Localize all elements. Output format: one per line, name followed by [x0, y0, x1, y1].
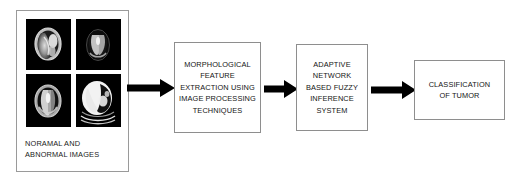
anfis-line-1: ADAPTIVE — [306, 59, 358, 70]
input-caption-line-1: NORAMAL AND — [25, 138, 125, 149]
flowchart-diagram: NORAMAL AND ABNORMAL IMAGES MORPHOLOGICA… — [0, 0, 519, 184]
brain-scan-axial-1-image — [26, 19, 71, 70]
chest-scan-axial-4-image — [76, 74, 121, 127]
anfis-box-text: ADAPTIVE NETWORK BASED FUZZY INFERENCE S… — [306, 59, 358, 116]
morphological-line-3: EXTRACTION USING — [179, 82, 256, 93]
morphological-line-4: IMAGE PROCESSING — [179, 93, 256, 104]
classification-box-text: CLASSIFICATION OF TUMOR — [429, 79, 491, 102]
classification-line-1: CLASSIFICATION — [429, 79, 491, 90]
anfis-line-4: INFERENCE — [306, 93, 358, 104]
morphological-box-text: MORPHOLOGICAL FEATURE EXTRACTION USING I… — [179, 59, 256, 116]
input-images-panel: NORAMAL AND ABNORMAL IMAGES — [16, 10, 129, 172]
input-panel-caption: NORAMAL AND ABNORMAL IMAGES — [25, 138, 125, 160]
anfis-line-3: BASED FUZZY — [306, 82, 358, 93]
input-caption-line-2: ABNORMAL IMAGES — [25, 149, 125, 160]
classification-of-tumor-box: CLASSIFICATION OF TUMOR — [414, 60, 505, 120]
anfis-line-5: SYSTEM — [306, 105, 358, 116]
arrow-morphological-to-anfis — [264, 79, 298, 99]
arrow-input-to-morphological — [127, 78, 175, 98]
brain-scan-axial-3-image — [26, 74, 71, 127]
anfis-line-2: NETWORK — [306, 70, 358, 81]
brain-scan-axial-2-image — [76, 19, 121, 70]
morphological-feature-extraction-box: MORPHOLOGICAL FEATURE EXTRACTION USING I… — [174, 42, 261, 133]
morphological-line-1: MORPHOLOGICAL — [179, 59, 256, 70]
morphological-line-5: TECHNIQUES — [179, 105, 256, 116]
scan-image-grid — [26, 19, 121, 131]
morphological-line-2: FEATURE — [179, 70, 256, 81]
classification-line-2: OF TUMOR — [429, 90, 491, 101]
arrow-anfis-to-classification — [371, 80, 416, 100]
anfis-box: ADAPTIVE NETWORK BASED FUZZY INFERENCE S… — [296, 44, 368, 131]
